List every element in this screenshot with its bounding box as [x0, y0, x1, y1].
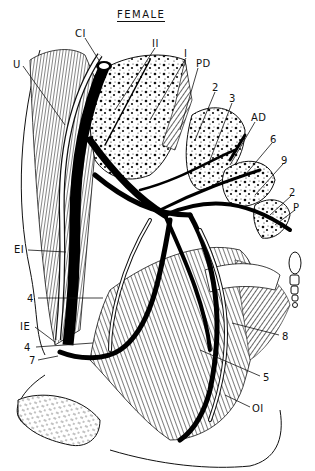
label-ei: EI: [14, 245, 24, 255]
label-p: P: [293, 203, 300, 213]
label-3: 3: [229, 94, 236, 104]
label-6: 6: [270, 135, 277, 145]
pubic-bone: [18, 395, 100, 445]
figure-title: FEMALE: [117, 9, 165, 22]
label-oi: OI: [252, 404, 264, 414]
coccyx: [289, 252, 301, 308]
label-5: 5: [263, 373, 270, 383]
label-u: U: [13, 60, 21, 70]
label-4a: 4: [27, 294, 34, 304]
label-2b: 2: [289, 188, 296, 198]
label-i: I: [184, 49, 187, 59]
label-8: 8: [282, 332, 289, 342]
label-4b: 4: [24, 343, 31, 353]
label-ii: II: [152, 39, 159, 49]
label-7: 7: [29, 356, 36, 366]
label-ie: IE: [20, 322, 30, 332]
anatomical-illustration: [0, 0, 315, 471]
label-ad: AD: [251, 113, 267, 123]
label-2a: 2: [212, 83, 219, 93]
label-9: 9: [281, 156, 288, 166]
label-ci: CI: [75, 29, 86, 39]
sacral-vertebrae: [90, 55, 290, 238]
label-pd: PD: [196, 59, 211, 69]
